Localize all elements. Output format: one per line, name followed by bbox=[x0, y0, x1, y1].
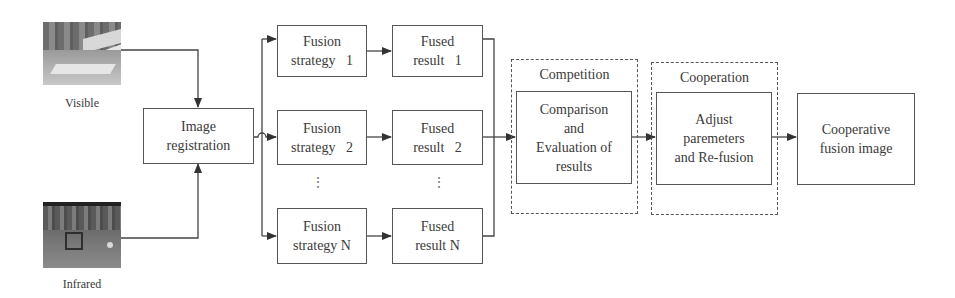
arrow-registration-to-strategy-2 bbox=[253, 133, 276, 137]
comparison-evaluation-box: Comparison and Evaluation of results bbox=[516, 91, 632, 184]
fusion-strategy-n-box: Fusion strategy N bbox=[277, 208, 367, 264]
strategy-2-line-2: strategy 2 bbox=[291, 138, 353, 157]
comparison-line-2: and bbox=[564, 119, 584, 138]
registration-line-1: Image bbox=[181, 117, 216, 136]
comparison-line-1: Comparison bbox=[540, 100, 608, 119]
registration-line-2: registration bbox=[167, 136, 231, 155]
cooperation-title: Cooperation bbox=[652, 70, 777, 86]
fusion-strategy-2-box: Fusion strategy 2 bbox=[277, 110, 367, 165]
strategy-1-line-2: strategy 1 bbox=[291, 51, 353, 70]
strategy-n-line-1: Fusion bbox=[303, 217, 341, 236]
adjust-line-1: Adjust bbox=[695, 110, 732, 129]
fused-result-1-box: Fused result 1 bbox=[392, 25, 483, 77]
result-1-line-2: result 1 bbox=[413, 51, 462, 70]
adjust-line-2: paremeters bbox=[683, 129, 744, 148]
visible-label: Visible bbox=[42, 96, 122, 111]
fusion-strategy-1-box: Fusion strategy 1 bbox=[277, 25, 367, 77]
image-registration-box: Image registration bbox=[143, 108, 254, 164]
strategy-ellipsis: ⋮ bbox=[311, 180, 321, 185]
output-line-2: fusion image bbox=[820, 139, 893, 158]
fused-result-n-box: Fused result N bbox=[392, 208, 483, 264]
fused-result-2-box: Fused result 2 bbox=[392, 110, 483, 165]
comparison-line-4: results bbox=[556, 157, 593, 176]
result-2-line-2: result 2 bbox=[413, 138, 462, 157]
infrared-image bbox=[43, 202, 121, 268]
comparison-line-3: Evaluation of bbox=[536, 138, 612, 157]
cooperative-fusion-image-box: Cooperative fusion image bbox=[797, 93, 915, 185]
strategy-n-line-2: strategy N bbox=[293, 236, 351, 255]
adjust-refusion-box: Adjust paremeters and Re-fusion bbox=[656, 92, 772, 185]
arrow-visible-to-registration bbox=[121, 50, 198, 107]
visible-image bbox=[43, 22, 121, 85]
result-2-line-1: Fused bbox=[421, 119, 454, 138]
strategy-2-line-1: Fusion bbox=[303, 119, 341, 138]
result-ellipsis: ⋮ bbox=[432, 180, 442, 185]
arrow-infrared-to-registration bbox=[121, 164, 198, 238]
result-n-line-2: result N bbox=[415, 236, 460, 255]
infrared-label: Infrared bbox=[42, 277, 122, 292]
competition-title: Competition bbox=[512, 67, 637, 83]
adjust-line-3: and Re-fusion bbox=[675, 148, 754, 167]
result-1-line-1: Fused bbox=[421, 32, 454, 51]
fusion-pipeline-diagram: Visible Infrared Image registration Fusi… bbox=[0, 0, 955, 298]
result-n-line-1: Fused bbox=[421, 217, 454, 236]
output-line-1: Cooperative bbox=[822, 120, 890, 139]
strategy-1-line-1: Fusion bbox=[303, 32, 341, 51]
